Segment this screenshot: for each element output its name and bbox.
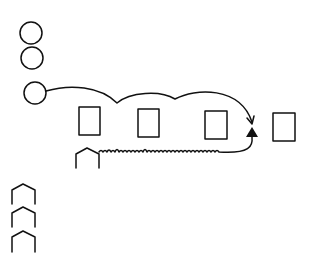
house-stack-1-icon [12,184,35,204]
house-stack-3-icon [12,231,35,252]
diagram-canvas [0,0,311,268]
rect-1 [79,107,100,135]
circle-1 [20,22,42,44]
circle-2 [21,47,43,69]
up-arrowhead-icon [246,127,258,137]
house-main-icon [76,148,99,168]
rect-3 [205,111,227,139]
scalloped-arc-path [46,87,252,122]
rect-4 [273,113,295,141]
rect-2 [138,109,159,137]
circle-3 [24,82,46,104]
wavy-line-path [99,137,252,152]
house-stack-2-icon [12,207,35,227]
